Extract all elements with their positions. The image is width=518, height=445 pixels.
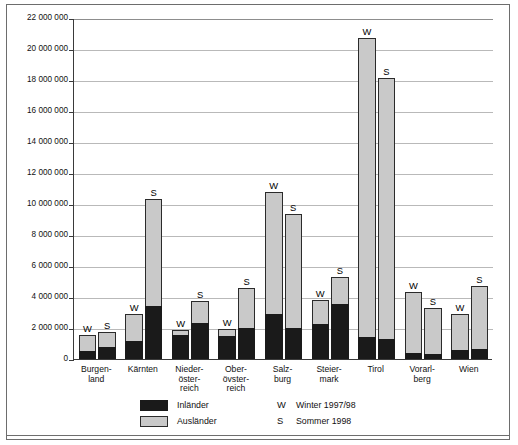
bar-steiermark-s — [331, 277, 349, 359]
bar-wien-w — [451, 314, 469, 359]
bar-salzburg-w — [265, 192, 283, 359]
bar-marker-w: W — [354, 26, 380, 37]
bar-segment-inlaender — [451, 350, 469, 359]
chart-figure: 22 000 00020 000 00018 000 00016 000 000… — [6, 4, 510, 440]
bar-segment-inlaender — [312, 324, 330, 359]
bar-marker-s: S — [187, 289, 213, 300]
bar-marker-w: W — [308, 288, 334, 299]
y-axis-tick-label: 18 000 000 — [12, 75, 68, 84]
bar-wien-s — [471, 286, 489, 359]
bar-segment-inlaender — [358, 337, 376, 359]
y-axis-tick-label: 10 000 000 — [12, 199, 68, 208]
footer-rule — [7, 435, 509, 436]
legend-label-winter: Winter 1997/98 — [296, 400, 356, 410]
bar-segment-inlaender — [378, 339, 396, 359]
x-axis-label-wien: Wien — [441, 365, 496, 375]
y-axis-tick-label: 16 000 000 — [12, 106, 68, 115]
bar-steiermark-w — [312, 300, 330, 359]
bar-kärnten-s — [145, 199, 163, 359]
bar-oberösterreich-s — [238, 288, 256, 359]
bar-segment-inlaender — [265, 314, 283, 359]
y-axis-tick — [69, 112, 74, 113]
y-axis-tick-label: 12 000 000 — [12, 168, 68, 177]
chart-axes: 22 000 00020 000 00018 000 00016 000 000… — [73, 19, 492, 360]
gridline — [74, 267, 493, 268]
bar-marker-w: W — [447, 302, 473, 313]
bar-oberösterreich-w — [218, 329, 236, 359]
bar-segment-inlaender — [331, 304, 349, 359]
bar-segment-inlaender — [238, 328, 256, 359]
y-axis-tick-label: 4 000 000 — [12, 292, 68, 301]
bar-segment-inlaender — [424, 354, 442, 359]
y-axis-tick-label: 2 000 000 — [12, 323, 68, 332]
bar-segment-inlaender — [471, 349, 489, 359]
bar-marker-w: W — [401, 280, 427, 291]
y-axis-tick — [69, 236, 74, 237]
y-axis-tick — [69, 298, 74, 299]
bar-burgenland-w — [79, 335, 97, 359]
y-axis-tick-label: 6 000 000 — [12, 261, 68, 270]
bar-segment-inlaender — [125, 341, 143, 359]
bar-segment-auslaender — [378, 78, 396, 359]
bar-segment-auslaender — [358, 38, 376, 359]
bar-marker-w: W — [261, 180, 287, 191]
bar-segment-inlaender — [98, 347, 116, 359]
gridline — [74, 112, 493, 113]
bar-salzburg-s — [285, 214, 303, 359]
plot-area: 22 000 00020 000 00018 000 00016 000 000… — [7, 5, 511, 365]
y-axis-tick — [69, 174, 74, 175]
y-axis-tick — [69, 329, 74, 330]
legend-marker-w: W — [277, 399, 286, 410]
y-axis-tick — [69, 81, 74, 82]
bar-marker-s: S — [327, 265, 353, 276]
gridline — [74, 50, 493, 51]
gridline — [74, 174, 493, 175]
bar-burgenland-s — [98, 332, 116, 359]
gridline — [74, 236, 493, 237]
y-axis-tick-label: 0 — [12, 354, 68, 363]
bar-segment-inlaender — [191, 323, 209, 359]
bar-marker-w: W — [121, 302, 147, 313]
bar-marker-s: S — [281, 202, 307, 213]
bar-marker-w: W — [214, 317, 240, 328]
bar-segment-auslaender — [424, 308, 442, 359]
legend-label-sommer: Sommer 1998 — [296, 416, 351, 426]
y-axis-tick-label: 14 000 000 — [12, 137, 68, 146]
legend-label-auslaender: Ausländer — [177, 416, 217, 426]
legend-swatch-auslaender — [140, 416, 168, 427]
bar-niederösterreich-w — [172, 330, 190, 359]
legend-swatch-inlaender — [140, 400, 168, 411]
y-axis-tick — [69, 19, 74, 20]
y-axis-tick — [69, 360, 74, 361]
legend-marker-s: S — [277, 415, 283, 426]
legend-label-inlaender: Inländer — [177, 400, 209, 410]
bar-marker-w: W — [168, 318, 194, 329]
bar-niederösterreich-s — [191, 301, 209, 359]
y-axis-tick — [69, 50, 74, 51]
bar-kärnten-w — [125, 314, 143, 359]
y-axis-tick-label: 22 000 000 — [12, 13, 68, 22]
bar-segment-inlaender — [285, 328, 303, 359]
bar-marker-s: S — [420, 296, 446, 307]
bar-marker-s: S — [467, 274, 493, 285]
gridline — [74, 19, 493, 20]
y-axis-tick-label: 8 000 000 — [12, 230, 68, 239]
bar-marker-s: S — [234, 276, 260, 287]
bar-marker-s: S — [141, 187, 167, 198]
bar-segment-inlaender — [145, 306, 163, 359]
bar-marker-s: S — [94, 320, 120, 331]
bar-tirol-w — [358, 38, 376, 359]
bar-marker-s: S — [374, 66, 400, 77]
bar-segment-inlaender — [79, 351, 97, 359]
bar-segment-inlaender — [172, 335, 190, 359]
bar-segment-inlaender — [405, 353, 423, 359]
gridline — [74, 143, 493, 144]
y-axis-tick — [69, 267, 74, 268]
bar-segment-inlaender — [218, 336, 236, 359]
bar-tirol-s — [378, 78, 396, 359]
y-axis-tick — [69, 205, 74, 206]
y-axis-tick-label: 20 000 000 — [12, 44, 68, 53]
gridline — [74, 81, 493, 82]
bar-vorarlberg-s — [424, 308, 442, 359]
y-axis-tick — [69, 143, 74, 144]
